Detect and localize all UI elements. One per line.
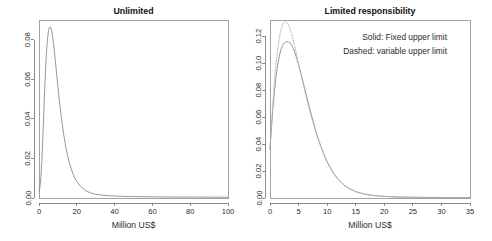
y-tick-label: 0.10 [255, 56, 264, 71]
figure-container: 0.000.020.040.060.08020406080100Million … [0, 0, 492, 241]
x-tick-label: 0 [37, 207, 41, 216]
x-tick-label: 15 [351, 207, 359, 216]
y-tick-label: 0.08 [24, 32, 33, 47]
unlimited-chart-svg: 0.000.020.040.060.08020406080100Million … [0, 0, 246, 241]
x-tick-label: 20 [73, 207, 81, 216]
series-curve-solid [270, 42, 470, 198]
y-tick-label: 0.06 [255, 110, 264, 125]
y-tick-label: 0.04 [255, 137, 264, 152]
limited-responsibility-chart-svg: 0.000.020.040.060.080.100.12051015202530… [246, 0, 492, 241]
x-axis-title: Million US$ [112, 220, 156, 230]
x-tick-label: 100 [222, 207, 235, 216]
x-tick-label: 35 [466, 207, 474, 216]
y-axis: 0.000.020.040.060.08 [24, 32, 35, 205]
y-tick-label: 0.02 [255, 164, 264, 179]
x-axis: 05101520253035 [268, 203, 474, 216]
x-tick-label: 10 [323, 207, 331, 216]
y-tick-label: 0.12 [255, 29, 264, 44]
y-axis: 0.000.020.040.060.080.100.12 [255, 29, 266, 206]
y-tick-label: 0.04 [24, 111, 33, 126]
panel-unlimited: 0.000.020.040.060.08020406080100Million … [0, 0, 246, 241]
x-tick-label: 60 [148, 207, 156, 216]
y-tick-label: 0.02 [24, 151, 33, 166]
y-tick-label: 0.06 [24, 72, 33, 87]
x-tick-label: 80 [186, 207, 194, 216]
x-tick-label: 40 [110, 207, 118, 216]
panel-title: Limited responsibility [325, 6, 416, 16]
y-tick-label: 0.08 [255, 83, 264, 98]
x-tick-label: 0 [268, 207, 272, 216]
chart-annotation: Solid: Fixed upper limit [362, 32, 447, 42]
x-tick-label: 30 [437, 207, 445, 216]
x-tick-label: 20 [380, 207, 388, 216]
y-tick-label: 0.00 [255, 191, 264, 206]
x-tick-label: 5 [296, 207, 300, 216]
x-axis: 020406080100 [37, 203, 234, 216]
plot-frame [39, 20, 228, 198]
x-axis-title: Million US$ [348, 220, 392, 230]
series-curve-solid [39, 27, 228, 197]
panel-limited-responsibility: 0.000.020.040.060.080.100.12051015202530… [246, 0, 492, 241]
panel-title: Unlimited [113, 6, 153, 16]
y-tick-label: 0.00 [24, 191, 33, 206]
chart-annotation: Dashed: variable upper limit [343, 46, 447, 56]
x-tick-label: 25 [409, 207, 417, 216]
